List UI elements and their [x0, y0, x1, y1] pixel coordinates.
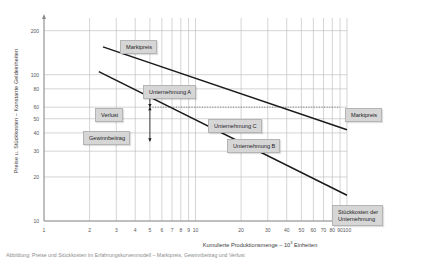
x-tick-40: 40 [279, 227, 295, 233]
x-tick-2: 2 [82, 227, 98, 233]
label-gewinnbeitrag-text: Gewinnbeitrag [89, 135, 125, 141]
label-stueckkosten-line1: Stückkosten der [338, 209, 378, 216]
label-marktpreis-left-text: Marktpreis [126, 44, 152, 50]
figure-caption: Abbildung: Preise und Stückkosten im Erf… [6, 252, 421, 260]
x-tick-10: 10 [188, 227, 204, 233]
label-stueckkosten-line2: Unternehmung [338, 216, 378, 223]
x-tick-20: 20 [233, 227, 249, 233]
x-tick-30: 30 [260, 227, 276, 233]
y-tick-30: 30 [19, 148, 39, 154]
x-tick-4: 4 [127, 227, 143, 233]
label-verlust-text: Verlust [101, 112, 118, 118]
label-unternehmung-c-text: Unternehmung C [214, 123, 257, 129]
label-marktpreis-right-text: Marktpreis [351, 112, 377, 118]
y-tick-50: 50 [19, 116, 39, 122]
y-tick-100: 100 [19, 72, 39, 78]
label-unternehmung-b-text: Unternehmung B [233, 143, 275, 149]
y-tick-20: 20 [19, 174, 39, 180]
y-tick-40: 40 [19, 130, 39, 136]
y-tick-10: 10 [19, 218, 39, 224]
x-tick-100: 100 [339, 227, 355, 233]
figure-container: Preise u. Stückkosten – Konstante Geldei… [0, 0, 427, 260]
y-tick-80: 80 [19, 86, 39, 92]
y-tick-200: 200 [19, 28, 39, 34]
x-tick-1: 1 [36, 227, 52, 233]
x-tick-3: 3 [108, 227, 124, 233]
label-unternehmung-a-text: Unternehmung A [149, 89, 191, 95]
y-tick-60: 60 [19, 104, 39, 110]
